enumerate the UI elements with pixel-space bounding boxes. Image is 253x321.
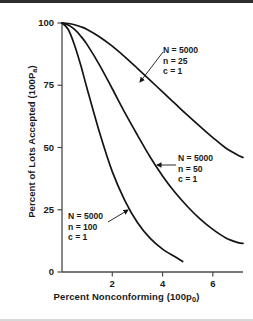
annotation-line: c = 1	[68, 232, 103, 243]
y-axis-title: Percent of Lots Accepted (100Pa)	[26, 27, 39, 257]
x-axis-tick-label: 2	[102, 279, 122, 289]
x-axis-tick-label: 4	[153, 279, 173, 289]
annotation-line: n = 50	[178, 164, 213, 175]
y-axis-title-subscript: a	[30, 68, 39, 72]
curve-annotation-n25: N = 5000 n = 25 c = 1	[163, 45, 198, 77]
y-axis-tick-label: 0	[28, 267, 54, 277]
x-axis-title: Percent Nonconforming (100p0)	[0, 291, 253, 304]
x-axis-title-main: Percent Nonconforming (100p	[54, 291, 192, 302]
curve-25	[62, 23, 243, 157]
annotation-line: c = 1	[178, 174, 213, 185]
annotation-line: n = 25	[163, 56, 198, 67]
annotation-pointer-100	[108, 210, 128, 222]
y-axis-title-tail: )	[26, 65, 37, 68]
annotation-line: n = 100	[68, 222, 103, 233]
annotation-line: N = 5000	[68, 211, 103, 222]
annotation-line: N = 5000	[163, 45, 198, 56]
curve-annotation-n50: N = 5000 n = 50 c = 1	[178, 153, 213, 185]
annotation-pointers	[108, 52, 176, 222]
figure: 0255075100 246 Percent of Lots Accepted …	[0, 0, 253, 321]
curve-annotation-n100: N = 5000 n = 100 c = 1	[68, 211, 103, 243]
x-axis-title-tail: )	[196, 291, 199, 302]
annotation-pointer-25	[140, 52, 163, 82]
annotation-line: c = 1	[163, 66, 198, 77]
x-axis-tick-label: 6	[203, 279, 223, 289]
annotation-line: N = 5000	[178, 153, 213, 164]
y-axis-title-main: Percent of Lots Accepted (100P	[26, 73, 37, 218]
